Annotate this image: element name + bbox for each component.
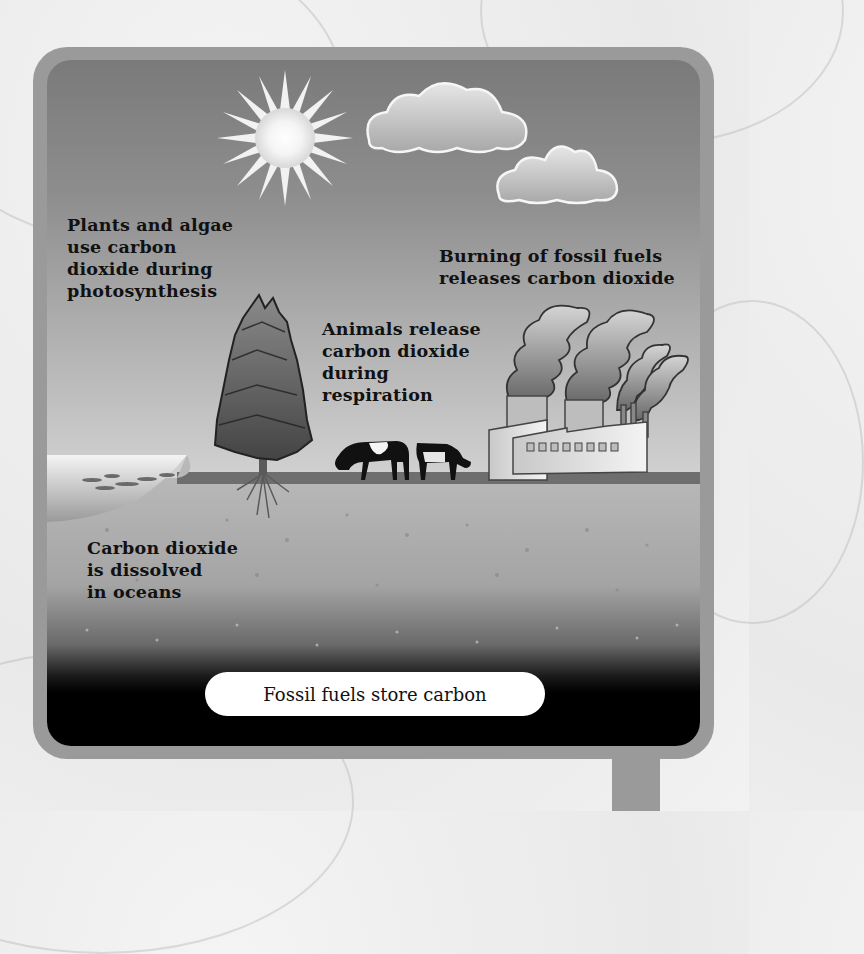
sun-icon — [217, 70, 353, 206]
fossil-fuels-store-label: Fossil fuels store carbon — [205, 672, 545, 716]
photosynthesis-label: Plants and algae use carbon dioxide duri… — [67, 214, 233, 302]
respiration-label: Animals release carbon dioxide during re… — [322, 318, 481, 406]
storage-label-text: Fossil fuels store carbon — [263, 684, 486, 705]
cloud-icon — [367, 83, 617, 203]
factory-icon — [489, 396, 648, 480]
oceans-label: Carbon dioxide is dissolved in oceans — [87, 537, 238, 603]
fossil-fuels-label: Burning of fossil fuels releases carbon … — [439, 245, 675, 289]
diagram-panel: Plants and algae use carbon dioxide duri… — [47, 60, 700, 746]
